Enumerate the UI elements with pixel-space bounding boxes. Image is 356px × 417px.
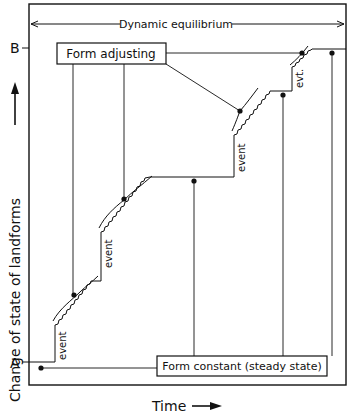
dynamic-equilibrium-label: Dynamic equilibrium bbox=[119, 18, 233, 31]
landform-state-trace bbox=[29, 46, 346, 362]
form-constant-label: Form constant (steady state) bbox=[162, 360, 322, 373]
svg-text:Change of state of landforms: Change of state of landforms bbox=[7, 198, 23, 402]
state-point-markers bbox=[38, 50, 334, 370]
dynamic-equilibrium-arrow: Dynamic equilibrium bbox=[31, 18, 344, 31]
form-adjusting-label: Form adjusting bbox=[66, 47, 155, 61]
y-axis-label: Change of state of landforms bbox=[7, 198, 23, 402]
x-axis-arrow-icon bbox=[192, 402, 222, 410]
y-axis-arrow-icon bbox=[11, 82, 19, 125]
event-label-4: evt. bbox=[294, 69, 305, 88]
x-axis-label: Time bbox=[151, 398, 186, 414]
event-label-2: event bbox=[103, 239, 114, 268]
form-constant-box: Form constant (steady state) bbox=[157, 356, 327, 376]
event-label-3: event bbox=[236, 143, 247, 172]
event-label-1: event bbox=[57, 331, 68, 360]
level-b-label: B bbox=[10, 40, 20, 56]
landform-equilibrium-diagram: Dynamic equilibrium B A Change of state … bbox=[0, 0, 356, 417]
constant-connectors bbox=[41, 53, 332, 368]
form-adjusting-box: Form adjusting bbox=[57, 43, 166, 64]
